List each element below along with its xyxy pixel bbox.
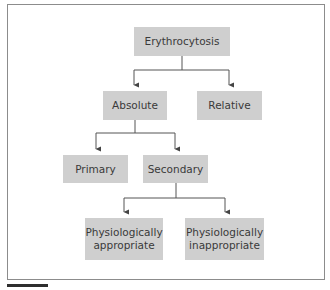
node-absolute: Absolute <box>103 91 167 120</box>
node-secondary-label: Secondary <box>148 163 204 176</box>
node-physiologically-inappropriate-line2: inappropriate <box>189 239 260 252</box>
node-erythrocytosis: Erythrocytosis <box>134 27 230 56</box>
node-physiologically-inappropriate-line1: Physiologically <box>186 226 263 239</box>
node-physiologically-inappropriate: Physiologically inappropriate <box>185 218 264 260</box>
node-primary: Primary <box>63 155 128 183</box>
footer-rule <box>7 284 48 287</box>
node-absolute-label: Absolute <box>112 99 158 112</box>
node-physiologically-appropriate-line2: appropriate <box>93 239 154 252</box>
node-physiologically-appropriate: Physiologically appropriate <box>85 218 163 260</box>
node-erythrocytosis-label: Erythrocytosis <box>145 35 220 48</box>
node-secondary: Secondary <box>143 155 208 183</box>
node-relative: Relative <box>197 91 262 120</box>
node-primary-label: Primary <box>75 163 116 176</box>
node-physiologically-appropriate-line1: Physiologically <box>85 226 162 239</box>
node-relative-label: Relative <box>208 99 250 112</box>
